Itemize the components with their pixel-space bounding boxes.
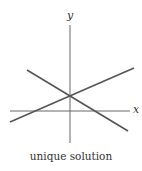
y-axis-label: y [67,10,73,21]
coordinate-plane [0,0,142,171]
line-b [27,70,128,131]
caption: unique solution [0,150,142,162]
line-a [10,68,134,122]
x-axis-label: x [133,104,139,115]
